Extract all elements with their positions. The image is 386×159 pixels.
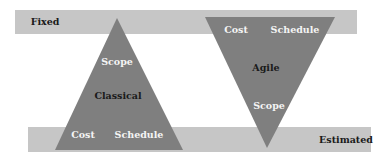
fixed-label: Fixed — [31, 17, 60, 27]
agile-title: Agile — [252, 63, 279, 73]
classical-title: Classical — [94, 91, 141, 101]
agile-schedule-label: Schedule — [271, 25, 320, 35]
agile-triangle — [205, 17, 335, 148]
classical-cost-label: Cost — [71, 130, 95, 140]
classical-schedule-label: Schedule — [115, 130, 164, 140]
estimated-label: Estimated — [319, 135, 373, 145]
agile-cost-label: Cost — [224, 25, 248, 35]
classical-scope-label: Scope — [101, 57, 133, 67]
agile-scope-label: Scope — [253, 101, 285, 111]
